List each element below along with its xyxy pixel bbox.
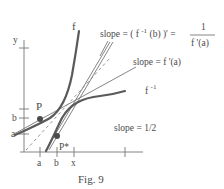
slope-inverse-numerator: 1 <box>201 22 206 32</box>
slope-inverse-denominator: f '(a) <box>191 38 209 49</box>
slope-inverse-suffix: (b) )' = <box>149 29 175 40</box>
point-p <box>37 116 43 122</box>
slope-f-annotation: slope = f '(a) <box>133 57 181 68</box>
leader-slope-inverse <box>100 41 108 56</box>
slope-inverse-annotation: slope = ( f -1 (b) )' = <box>100 25 176 40</box>
curve-f-inverse-label-base: f <box>145 86 149 96</box>
slope-inverse-sup: -1 <box>141 27 147 35</box>
curve-f-inverse-label: f -1 <box>145 83 157 96</box>
point-p-star <box>54 133 60 139</box>
curve-f-inverse <box>46 91 125 151</box>
y-axis-label: y <box>13 35 18 45</box>
x-tick-label-a: a <box>37 158 42 168</box>
curve-f-label: f <box>72 20 76 32</box>
y-tick-label-b: b <box>12 113 17 123</box>
x-tick-label-b: b <box>54 158 59 168</box>
point-p-star-label: P* <box>59 142 69 152</box>
curve-f <box>15 31 79 135</box>
curve-f-inverse-label-sup: -1 <box>151 83 157 91</box>
point-p-label: P <box>36 100 42 112</box>
figure-caption: Fig. 9 <box>78 173 104 185</box>
slope-inverse-prefix: slope = ( f <box>100 29 140 40</box>
slope-half-annotation: slope = 1/2 <box>114 123 157 133</box>
inverse-function-derivative-diagram: y b a a b x P P* f f -1 slope = ( f -1 (… <box>0 0 224 189</box>
x-tick-label-x: x <box>71 158 76 168</box>
